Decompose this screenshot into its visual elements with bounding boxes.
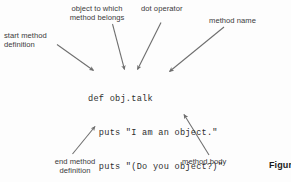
arrow-dot-operator	[138, 23, 162, 70]
label-method-name: method name	[209, 16, 279, 25]
code-line-def: def obj.talk	[88, 94, 223, 105]
figure-caption-fragment: Figur	[269, 160, 291, 170]
code-line-puts-1: puts "I am an object."	[88, 128, 223, 139]
arrow-object-to-which-method-belongs	[113, 24, 125, 70]
ruby-method-definition-diagram: start method definition object to which …	[0, 0, 291, 182]
label-dot-operator: dot operator	[141, 4, 203, 13]
label-object-to-which-method-belongs: object to which method belongs	[61, 4, 133, 22]
ruby-code-block: def obj.talk puts "I am an object." puts…	[88, 71, 223, 182]
arrow-method-name	[170, 27, 225, 72]
code-line-puts-2: puts "(Do you object?)"	[88, 162, 223, 173]
label-start-method-definition: start method definition	[4, 31, 76, 49]
